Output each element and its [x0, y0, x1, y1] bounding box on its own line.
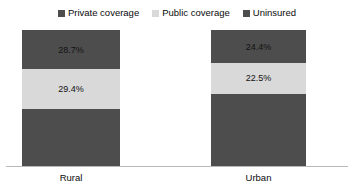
- bar-segment-rural-public-coverage[interactable]: 29.4%: [22, 69, 120, 109]
- category-label-rural: Rural: [22, 172, 120, 184]
- category-label-urban: Urban: [211, 172, 306, 184]
- axis-baseline: [6, 166, 348, 167]
- bar-segment-label-rural-public-coverage: 29.4%: [58, 84, 84, 94]
- bar-segment-label-urban-private-coverage: 24.4%: [246, 42, 272, 52]
- stacked-bar-chart: Private coverage Public coverage Uninsur…: [0, 0, 354, 196]
- bar-segment-urban-public-coverage[interactable]: 22.5%: [211, 63, 306, 94]
- bar-rural[interactable]: 28.7% 29.4%: [22, 30, 120, 166]
- bar-segment-urban-uninsured[interactable]: [211, 94, 306, 166]
- bar-segment-rural-uninsured[interactable]: [22, 109, 120, 166]
- plot-area: 28.7% 29.4% 24.4% 22.5% Rural Urban: [0, 0, 354, 196]
- bar-segment-label-rural-private-coverage: 28.7%: [58, 45, 84, 55]
- bar-segment-label-urban-public-coverage: 22.5%: [246, 73, 272, 83]
- bar-segment-rural-private-coverage[interactable]: 28.7%: [22, 30, 120, 69]
- bar-urban[interactable]: 24.4% 22.5%: [211, 30, 306, 166]
- bar-segment-urban-private-coverage[interactable]: 24.4%: [211, 30, 306, 63]
